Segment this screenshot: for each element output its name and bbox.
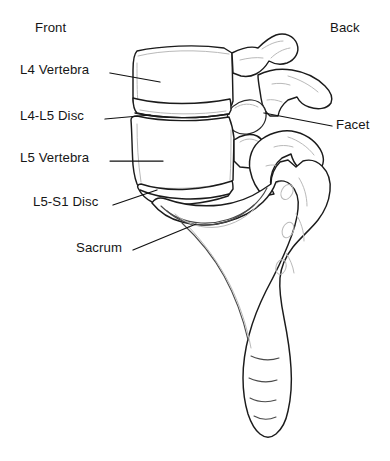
annotation-label-l4-vertebra: L4 Vertebra	[20, 63, 89, 77]
annotation-label-l5-s1-disc: L5-S1 Disc	[33, 195, 99, 209]
annotation-label-sacrum: Sacrum	[76, 241, 122, 255]
l4-posterior-elements	[227, 34, 331, 134]
annotation-label-facet: Facet	[336, 118, 369, 132]
l5-vertebral-body	[131, 116, 234, 191]
leader-line-facet	[264, 113, 332, 126]
annotation-label-l5-vertebra: L5 Vertebra	[20, 151, 89, 165]
orientation-label-back: Back	[330, 21, 360, 35]
orientation-label-front: Front	[35, 21, 66, 35]
leader-line-sacrum	[133, 224, 196, 250]
spine-diagram: Front Back L4 Vertebra L4-L5 Disc L5 Ver…	[0, 0, 390, 461]
annotation-label-l4-l5-disc: L4-L5 Disc	[20, 109, 84, 123]
